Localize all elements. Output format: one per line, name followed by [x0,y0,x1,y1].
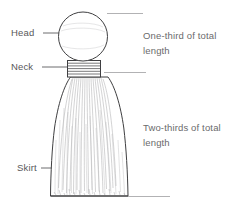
annotation-one-third: One-third of total length [143,28,216,58]
annotation-two-thirds-line2: length [143,135,221,150]
skirt-shape [51,77,129,196]
doll-proportions-diagram: Head Neck Skirt One-third of total lengt… [0,0,250,210]
annotation-two-thirds: Two-thirds of total length [143,120,221,150]
annotation-two-thirds-line1: Two-thirds of total [143,122,221,133]
part-label-head: Head [11,27,34,38]
neck-binding [68,61,101,78]
part-label-neck: Neck [11,61,33,72]
part-label-skirt: Skirt [17,162,37,173]
annotation-one-third-line2: length [143,43,216,58]
annotation-one-third-line1: One-third of total [143,30,216,41]
head-shape [59,12,108,61]
